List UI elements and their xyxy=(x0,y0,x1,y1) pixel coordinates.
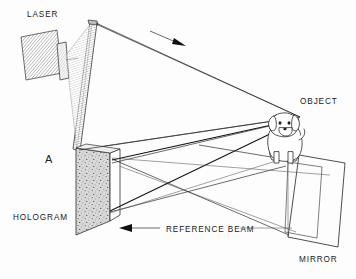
ray-mirror-to-hologram-lower xyxy=(110,166,286,212)
hologram-emulsion-face xyxy=(76,148,110,235)
holography-diagram: LASER OBJECT HOLOGRAM MIRROR REFERENCE B… xyxy=(0,0,356,279)
beam-expander-plate xyxy=(66,20,98,151)
label-mirror: MIRROR xyxy=(299,255,338,264)
ray-object-upper xyxy=(96,24,300,117)
panel-label-a: A xyxy=(45,153,53,165)
object-dog xyxy=(268,113,305,163)
mirror-surface xyxy=(285,162,322,238)
ray-cross-b xyxy=(110,156,292,213)
hologram-plate xyxy=(76,144,120,235)
label-object: OBJECT xyxy=(300,97,338,106)
diagram-canvas: LASER OBJECT HOLOGRAM MIRROR REFERENCE B… xyxy=(0,0,356,279)
label-hologram: HOLOGRAM xyxy=(13,213,68,222)
top-beam-arrow xyxy=(150,31,186,46)
laser-body xyxy=(21,30,62,80)
label-laser: LASER xyxy=(27,10,58,19)
mirror-panel xyxy=(285,155,345,247)
mirror-frame xyxy=(288,155,345,247)
label-reference-beam: REFERENCE BEAM xyxy=(166,225,255,234)
